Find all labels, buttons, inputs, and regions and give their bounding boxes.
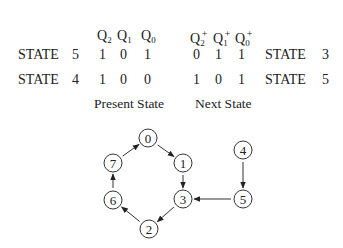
edge-3-to-2 [157,207,174,222]
svg-text:6: 6 [110,193,117,208]
edge-7-to-0 [123,144,139,156]
state-diagram: 01326745 [0,0,343,248]
state-node-3: 3 [174,190,192,208]
state-node-0: 0 [139,129,157,147]
svg-text:3: 3 [180,192,187,207]
state-node-2: 2 [140,220,158,238]
edge-2-to-6 [122,207,140,222]
svg-text:5: 5 [240,192,247,207]
state-node-5: 5 [234,190,252,208]
svg-text:7: 7 [110,156,117,171]
edge-0-to-1 [158,145,174,157]
svg-text:4: 4 [240,143,247,158]
state-nodes: 01326745 [104,129,252,238]
svg-text:1: 1 [180,156,187,171]
svg-text:2: 2 [146,222,153,237]
state-node-4: 4 [234,141,252,159]
state-node-1: 1 [174,154,192,172]
state-node-7: 7 [104,154,122,172]
state-node-6: 6 [104,191,122,209]
svg-text:0: 0 [145,131,152,146]
